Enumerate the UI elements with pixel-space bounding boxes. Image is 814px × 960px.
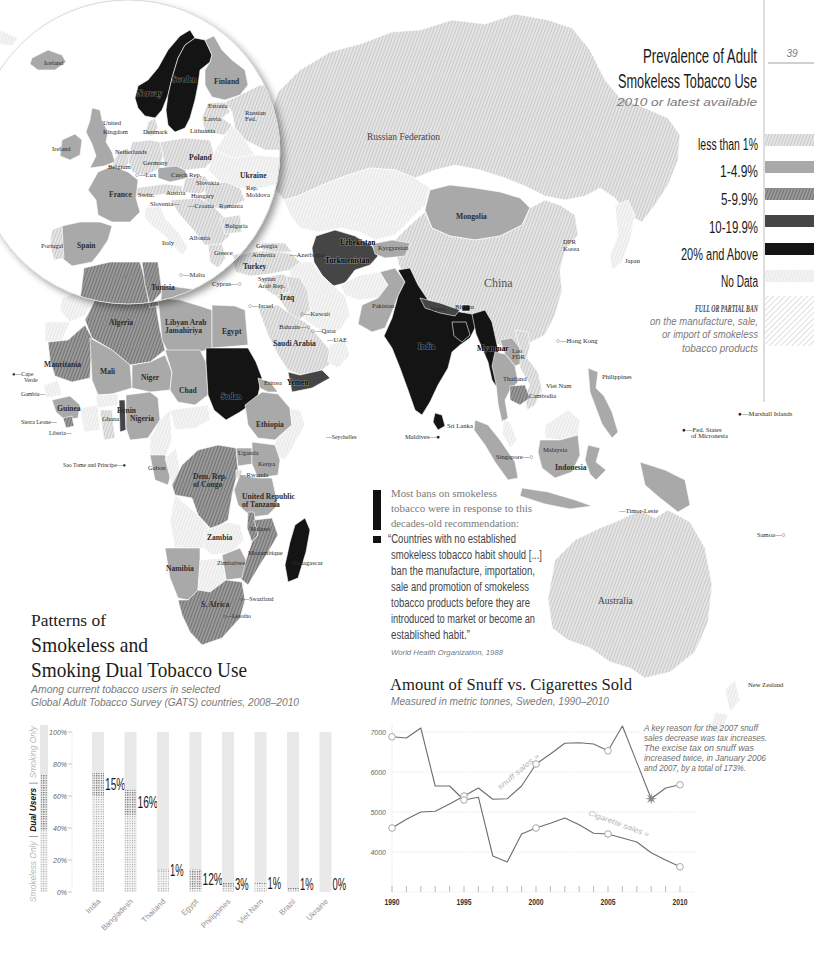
legend-ban-line: tobacco products: [682, 343, 758, 354]
data-point-marker: [677, 782, 684, 789]
map-label: Spain: [77, 241, 96, 250]
quote-body-line: tobacco products before they are: [391, 596, 530, 610]
map-label: Belgium: [108, 163, 132, 170]
map-label: Thailand: [503, 375, 527, 382]
snuff-chart-subtitle: Measured in metric tonnes, Sweden, 1990–…: [391, 696, 609, 707]
map-label: Liberia—: [49, 430, 72, 436]
map-label: Hungary: [191, 192, 215, 199]
map-label: Jamahiriya: [165, 326, 202, 335]
legend-separator: |: [28, 782, 38, 784]
map-label: ○—Malta: [179, 271, 205, 278]
country-axis-label: Bangladesh: [99, 897, 134, 932]
map-label: Japan: [625, 257, 641, 264]
bar-group: 3%Philippines: [199, 732, 248, 930]
map-label: Russian Federation: [367, 132, 440, 142]
map-label: Ghana: [102, 415, 119, 422]
data-point-marker: [677, 864, 684, 871]
map-label: Cyprus—○: [212, 280, 242, 287]
map-label: Mongolia: [456, 212, 487, 221]
bar-smoking-only: [222, 732, 234, 892]
map-label: Bhutan: [455, 303, 475, 310]
map-label: Italy: [162, 239, 175, 246]
bar-smokeless-only: [190, 889, 202, 892]
dual-use-title-line3: Smoking Dual Tobacco Use: [31, 657, 247, 682]
map-label: —Seychelles: [325, 434, 357, 440]
snuff-sales-line: [392, 726, 680, 828]
map-label: Ethiopia: [256, 420, 284, 429]
star-icon: [645, 793, 657, 805]
map-label: Saudi Arabia: [273, 339, 316, 348]
quote-body-line: sale and promotion of smokeless: [391, 580, 529, 594]
map-label: Syrian: [258, 275, 276, 282]
legend-label: less than 1%: [698, 136, 758, 153]
map-label: India: [418, 342, 435, 351]
country-namibia: [165, 548, 200, 600]
y-tick-label: 7000: [370, 729, 386, 736]
map-label: Yemen: [287, 378, 308, 387]
quote-source: World Health Organization, 1988: [391, 648, 504, 657]
country-axis-label: Brazil: [277, 897, 297, 917]
legend-item-10to20: 10-19.9%: [709, 215, 814, 236]
country-axis-label: Egypt: [179, 896, 200, 917]
map-label: Netherlands: [115, 148, 147, 155]
map-label: Sweden: [172, 75, 196, 84]
legend-item-1to5: 1-4.9%: [720, 161, 814, 180]
legend-ban-title: FULL OR PARTIAL BAN: [694, 304, 758, 314]
quote-intro-line: Most bans on smokeless: [391, 487, 497, 499]
bar-smokeless-only: [222, 887, 234, 892]
map-label: ○—Swaziland: [240, 596, 274, 602]
dual-pct-label: 1%: [268, 874, 282, 892]
map-label: Mauritania: [44, 360, 81, 369]
map-label: ○—Kuwait: [300, 310, 330, 317]
data-point-marker: [605, 748, 612, 755]
map-label: Ireland: [52, 145, 71, 152]
map-label: Bahrain—○: [279, 323, 310, 330]
dual-use-title-line1: Patterns of: [31, 612, 107, 629]
map-subtitle: 2010 or latest available: [616, 96, 757, 108]
legend-bar-dual-users: [40, 775, 48, 830]
quote-body-line: ban the manufacture, importation,: [391, 564, 535, 578]
map-label: Finland: [214, 77, 240, 86]
x-tick-label: 1990: [385, 897, 400, 907]
map-label: DPR: [563, 238, 576, 245]
legend-ban-line: on the manufacture, sale,: [650, 316, 758, 327]
bar-group: 0%Ukraine: [305, 732, 347, 922]
bar-series: 15%India16%Bangladesh1%Thailand12%Egypt3…: [84, 732, 346, 933]
country-new-zealand-north: [725, 680, 740, 712]
legend-swatch-5to10: [765, 188, 814, 200]
dual-pct-label: 3%: [235, 875, 249, 893]
quote-body-line: smokeless tobacco habit should [...]: [391, 548, 542, 562]
map-label: Greece: [214, 249, 233, 256]
country-benin: [119, 400, 126, 432]
y-tick-label: 4000: [370, 849, 386, 856]
legend-label: 1-4.9%: [720, 163, 758, 180]
legend-dual-users: Dual Users: [28, 788, 38, 832]
y-tick-label: 5000: [370, 809, 386, 816]
page-number: 39: [786, 48, 798, 59]
map-label: Romania: [219, 202, 243, 209]
map-label: New Zealand: [748, 681, 784, 688]
map-label: Philippines: [602, 373, 632, 380]
exclamation-icon-dot: [373, 536, 381, 543]
map-label: Iraq: [280, 293, 295, 302]
data-point-marker: [389, 734, 396, 741]
map-label: —Rwanda: [239, 471, 268, 478]
map-label: Turkey: [243, 262, 267, 271]
map-label: Slovakia: [196, 179, 219, 186]
map-label: Sri Lanka: [447, 422, 473, 429]
legend-label: 20% and Above: [681, 246, 758, 263]
map-label: Guinea: [57, 404, 81, 413]
map-label: Armenia: [252, 251, 275, 258]
map-label: Myanmar: [477, 344, 509, 353]
bar-group: 15%India: [84, 732, 126, 915]
country-cote-divoire: [80, 405, 100, 432]
country-central-african-rep: [170, 405, 210, 430]
country-western-sahara: [45, 322, 70, 342]
map-label: Niger: [141, 373, 160, 382]
map-label: Iceland: [44, 59, 64, 66]
map-label: Gabon: [148, 464, 166, 471]
dual-pct-label: 0%: [333, 875, 347, 893]
bar-smokeless-only: [92, 796, 104, 892]
legend-separator: |: [28, 835, 38, 837]
map-label: ○—Israel: [248, 302, 273, 309]
